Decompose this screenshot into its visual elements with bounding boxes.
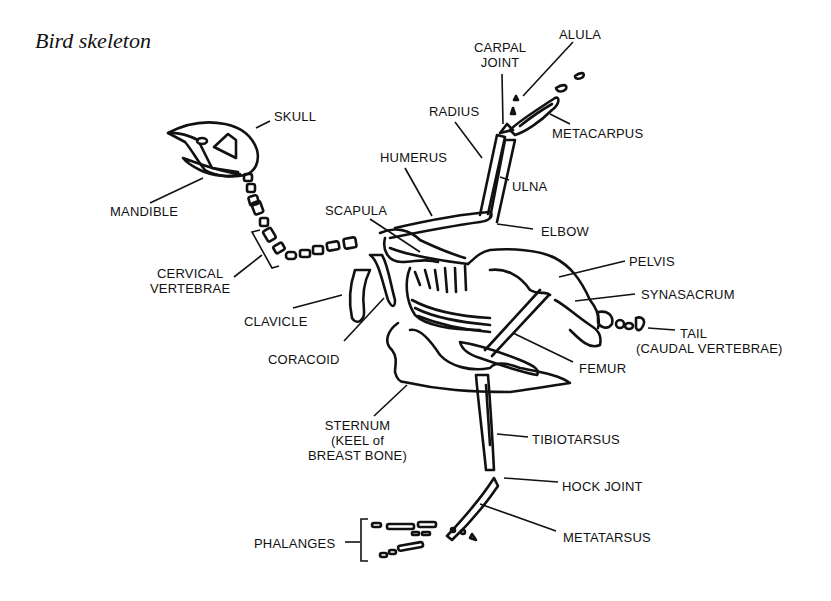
label-femur: FEMUR: [579, 361, 626, 376]
label-line: BREAST BONE): [308, 448, 407, 463]
phalanges-drawing: [372, 522, 476, 557]
label-line: CERVICAL: [150, 266, 230, 281]
label-line: (CAUDAL VERTEBRAE): [636, 341, 783, 356]
label-metatarsus: METATARSUS: [563, 530, 651, 545]
label-alula: ALULA: [559, 27, 601, 42]
label-pelvis: PELVIS: [629, 254, 675, 269]
label-hock-joint: HOCK JOINT: [562, 479, 643, 494]
label-cervical-vertebrae: CERVICAL VERTEBRAE: [150, 266, 230, 296]
torso-drawing: [350, 229, 601, 346]
label-line: TAIL: [636, 326, 783, 341]
phalanges-bracket: [361, 519, 368, 561]
femur-drawing: [460, 290, 548, 375]
label-coracoid: CORACOID: [268, 352, 340, 367]
label-line: VERTEBRAE: [150, 281, 230, 296]
label-line: STERNUM: [308, 418, 407, 433]
label-tibiotarsus: TIBIOTARSUS: [532, 432, 620, 447]
label-humerus: HUMERUS: [380, 150, 447, 165]
label-radius: RADIUS: [429, 104, 479, 119]
label-synasacrum: SYNASACRUM: [641, 287, 735, 302]
label-line: CARPAL: [474, 40, 526, 55]
label-carpal-joint: CARPAL JOINT: [474, 40, 526, 70]
label-skull: SKULL: [274, 109, 316, 124]
label-phalanges: PHALANGES: [254, 536, 335, 551]
label-ulna: ULNA: [512, 179, 547, 194]
label-tail: TAIL (CAUDAL VERTEBRAE): [636, 326, 783, 356]
skull-drawing: [168, 122, 258, 176]
label-mandible: MANDIBLE: [110, 204, 178, 219]
label-metacarpus: METACARPUS: [552, 126, 643, 141]
label-line: JOINT: [474, 55, 526, 70]
label-clavicle: CLAVICLE: [244, 314, 308, 329]
label-scapula: SCAPULA: [325, 203, 387, 218]
label-sternum: STERNUM (KEEL of BREAST BONE): [308, 418, 407, 463]
leg-drawing: [447, 375, 498, 540]
label-line: (KEEL of: [308, 433, 407, 448]
label-elbow: ELBOW: [541, 224, 589, 239]
